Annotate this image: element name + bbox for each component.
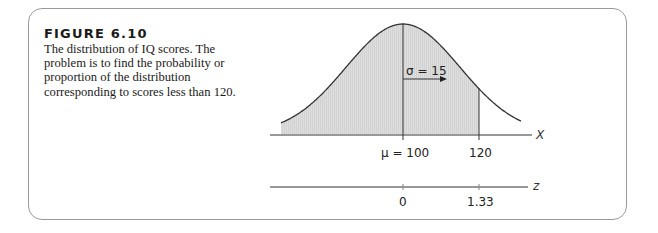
shaded-area-below-120 — [281, 24, 479, 134]
z0-tick-label: 0 — [399, 195, 407, 209]
x-axis-variable: X — [535, 128, 545, 142]
z133-tick-label: 1.33 — [467, 195, 494, 209]
z-axis-variable: z — [532, 179, 540, 193]
x120-tick-label: 120 — [469, 146, 492, 160]
normal-distribution-chart: X σ = 15 μ = 100 120 z 0 1.33 — [0, 0, 658, 233]
mean-tick-label: μ = 100 — [381, 146, 429, 160]
sigma-label: σ = 15 — [406, 64, 447, 78]
